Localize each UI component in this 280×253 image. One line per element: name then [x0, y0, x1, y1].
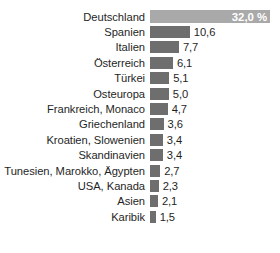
category-label: Griechenland — [0, 118, 150, 130]
category-label: Spanien — [0, 26, 150, 38]
value-label: 7,7 — [183, 41, 198, 53]
chart-row: Skandinavien3,4 — [0, 148, 280, 163]
chart-row: Frankreich, Monaco4,7 — [0, 101, 280, 116]
chart-row: Kroatien, Slowenien3,4 — [0, 132, 280, 147]
bar-area: 3,4 — [150, 132, 280, 147]
value-label: 3,4 — [167, 134, 182, 146]
bar — [150, 103, 168, 115]
chart-row: Spanien10,6 — [0, 24, 280, 39]
bar — [150, 88, 169, 100]
bar-area: 2,1 — [150, 194, 280, 209]
chart-row: Österreich6,1 — [0, 55, 280, 70]
value-label: 6,1 — [177, 57, 192, 69]
bar — [150, 72, 169, 84]
value-label: 1,5 — [160, 211, 175, 223]
bar — [150, 41, 179, 53]
chart-row: Italien7,7 — [0, 40, 280, 55]
bar-area: 7,7 — [150, 40, 280, 55]
category-label: Deutschland — [0, 11, 150, 23]
bar-area: 6,1 — [150, 55, 280, 70]
bar — [150, 165, 160, 177]
chart-row: Tunesien, Marokko, Ägypten2,7 — [0, 163, 280, 178]
value-label: 3,4 — [167, 149, 182, 161]
chart-row: USA, Kanada2,3 — [0, 178, 280, 193]
bar-area: 32,0 % — [150, 9, 280, 24]
category-label: Asien — [0, 195, 150, 207]
chart-row: Türkei5,1 — [0, 71, 280, 86]
bar-area: 3,4 — [150, 148, 280, 163]
category-label: Türkei — [0, 72, 150, 84]
category-label: Österreich — [0, 57, 150, 69]
bar — [150, 180, 159, 192]
bar: 32,0 % — [150, 10, 270, 23]
bar-area: 2,3 — [150, 178, 280, 193]
category-label: USA, Kanada — [0, 180, 150, 192]
bar — [150, 118, 164, 130]
chart-row: Deutschland32,0 % — [0, 9, 280, 24]
bar-area: 2,7 — [150, 163, 280, 178]
category-label: Karibik — [0, 211, 150, 223]
bar — [150, 57, 173, 69]
chart-row: Asien2,1 — [0, 194, 280, 209]
category-label: Tunesien, Marokko, Ägypten — [0, 165, 150, 177]
bar — [150, 26, 190, 38]
value-label: 32,0 % — [232, 11, 267, 23]
value-label: 10,6 — [194, 26, 216, 38]
bar — [150, 195, 158, 207]
category-label: Italien — [0, 41, 150, 53]
value-label: 3,6 — [168, 118, 183, 130]
category-label: Skandinavien — [0, 149, 150, 161]
bar-area: 10,6 — [150, 24, 280, 39]
bar-area: 4,7 — [150, 101, 280, 116]
bar-area: 5,1 — [150, 71, 280, 86]
category-label: Kroatien, Slowenien — [0, 134, 150, 146]
chart-row: Karibik1,5 — [0, 209, 280, 224]
bar-area: 3,6 — [150, 117, 280, 132]
category-label: Frankreich, Monaco — [0, 103, 150, 115]
value-label: 2,7 — [164, 165, 179, 177]
bar — [150, 211, 156, 223]
bar — [150, 134, 163, 146]
value-label: 5,0 — [173, 88, 188, 100]
value-label: 2,1 — [162, 195, 177, 207]
bar-area: 1,5 — [150, 209, 280, 224]
category-label: Osteuropa — [0, 88, 150, 100]
bar — [150, 149, 163, 161]
horizontal-bar-chart: Deutschland32,0 %Spanien10,6Italien7,7Ös… — [0, 0, 280, 253]
value-label: 5,1 — [173, 72, 188, 84]
value-label: 4,7 — [172, 103, 187, 115]
chart-row: Osteuropa5,0 — [0, 86, 280, 101]
chart-row: Griechenland3,6 — [0, 117, 280, 132]
value-label: 2,3 — [163, 180, 178, 192]
bar-area: 5,0 — [150, 86, 280, 101]
